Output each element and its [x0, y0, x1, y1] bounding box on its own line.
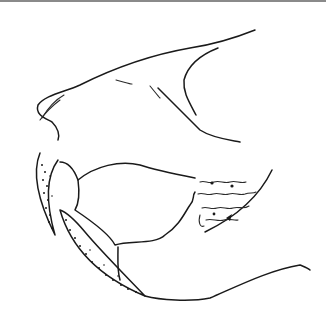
molar-stroke — [206, 219, 238, 220]
skull-line-drawing — [0, 0, 326, 326]
molar-stroke — [200, 181, 246, 182]
molar-stroke — [198, 192, 256, 195]
molar-arc — [205, 170, 272, 232]
upper-tooth-outline — [36, 153, 58, 235]
lower-tooth-outline — [60, 210, 145, 296]
brow-stroke — [116, 80, 132, 84]
jaw-lower-outline — [75, 180, 195, 245]
molar-stroke — [202, 206, 249, 209]
jaw-outline — [60, 162, 195, 180]
brow-stroke — [40, 100, 60, 120]
cheek-line — [158, 88, 240, 142]
mandible-curve — [145, 265, 310, 300]
molar-dot — [230, 184, 233, 187]
molar-dot — [213, 213, 216, 216]
cranium-outline — [37, 30, 255, 140]
molar-stroke — [199, 215, 204, 226]
jaw-vertical — [118, 247, 120, 280]
eye-socket-curve — [184, 48, 218, 115]
molar-dot — [210, 181, 213, 184]
